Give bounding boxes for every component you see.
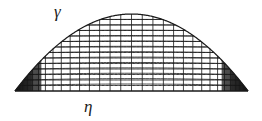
curve-label-gamma: γ [54, 3, 61, 20]
arch-mesh-diagram [0, 0, 262, 121]
figure-container: γ η [0, 0, 262, 121]
baseline-label-eta: η [84, 98, 92, 115]
